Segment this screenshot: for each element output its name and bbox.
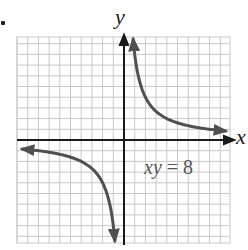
y-axis-label: y: [115, 4, 125, 30]
x-axis-label: x: [236, 124, 246, 150]
equation-value: = 8: [162, 156, 193, 178]
hyperbola-graph: [0, 0, 248, 250]
equation-variables: xy: [144, 156, 162, 178]
equation-label: xy = 8: [144, 156, 193, 179]
